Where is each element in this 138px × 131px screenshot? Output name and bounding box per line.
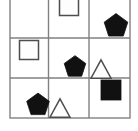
- cell-middle-center-pentagon-filled-icon: [64, 56, 86, 77]
- matrix-canvas: [0, 0, 138, 131]
- cell-bottom-right-square-filled-icon: [101, 80, 121, 100]
- cell-top-middle-square-outline-icon: [60, 0, 79, 16]
- cell-top-right-pentagon-filled-icon: [104, 14, 128, 36]
- cell-bottom-middle-triangle-outline-icon: [50, 99, 70, 117]
- cell-middle-left-square-outline-icon: [20, 41, 39, 60]
- cell-bottom-left-pentagon-filled-icon: [27, 93, 50, 114]
- cell-middle-right-triangle-outline-icon: [91, 60, 111, 78]
- shape-matrix-figure: [0, 0, 138, 131]
